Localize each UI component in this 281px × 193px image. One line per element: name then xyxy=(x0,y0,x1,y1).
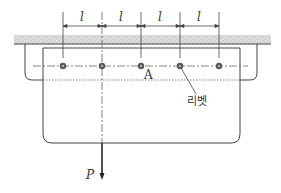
riveted-bracket-diagram: l l l l A 리벳 P xyxy=(0,0,281,193)
rivet-icon xyxy=(60,63,66,69)
wall-support xyxy=(14,35,271,44)
plate xyxy=(43,48,240,143)
dimension-label-1: l xyxy=(80,10,84,24)
dimension-label-2: l xyxy=(119,10,123,24)
dimension-label-3: l xyxy=(158,10,162,24)
dimension-label-4: l xyxy=(197,10,201,24)
rivet-icon xyxy=(99,63,105,69)
point-a-label: A xyxy=(143,68,153,82)
rivet-icon xyxy=(177,63,183,69)
load-arrow xyxy=(100,143,105,180)
rivet-label: 리벳 xyxy=(187,95,207,108)
rivet-icon xyxy=(216,63,222,69)
load-label: P xyxy=(85,168,95,182)
